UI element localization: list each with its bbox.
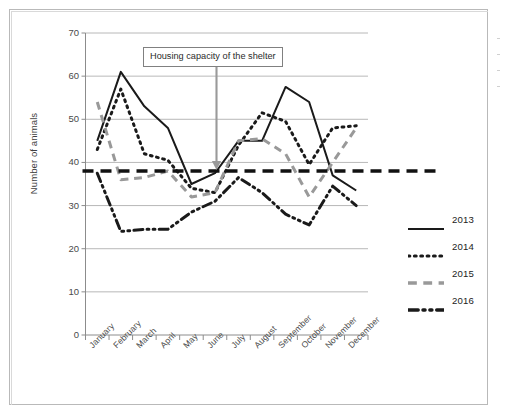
annotation-arrow xyxy=(212,66,221,170)
y-tick-label: 50 xyxy=(55,114,79,124)
gridlines xyxy=(86,33,369,292)
y-tick-label: 60 xyxy=(55,71,79,81)
legend-label-2016: 2016 xyxy=(452,295,474,306)
series-line-2016 xyxy=(97,173,356,231)
y-tick-label: 70 xyxy=(55,28,79,38)
y-tick-label: 20 xyxy=(55,244,79,254)
y-tick-label: 10 xyxy=(55,287,79,297)
y-tick-label: 40 xyxy=(55,157,79,167)
legend-swatch-2014 xyxy=(408,245,444,251)
annotation-callout: Housing capacity of the shelter xyxy=(143,47,283,67)
legend-label-2014: 2014 xyxy=(452,241,474,252)
legend-item-2014[interactable]: 2014 xyxy=(408,236,494,263)
chart-legend: 2013 2014 2015 2016 xyxy=(408,209,494,317)
y-axis-title: Number of animals xyxy=(28,94,39,214)
legend-item-2015[interactable]: 2015 xyxy=(408,263,494,290)
y-tick-label: 30 xyxy=(55,201,79,211)
legend-label-2013: 2013 xyxy=(452,214,474,225)
chart-page: Number of animals 706050403020100 Januar… xyxy=(0,0,508,416)
legend-item-2013[interactable]: 2013 xyxy=(408,209,494,236)
line-chart: Number of animals 706050403020100 Januar… xyxy=(0,0,508,416)
legend-swatch-2016 xyxy=(408,299,444,305)
legend-label-2015: 2015 xyxy=(452,268,474,279)
legend-swatch-2015 xyxy=(408,272,444,278)
legend-swatch-2013 xyxy=(408,218,444,224)
series-layer xyxy=(97,72,356,232)
legend-item-2016[interactable]: 2016 xyxy=(408,290,494,317)
y-tick-label: 0 xyxy=(55,330,79,340)
